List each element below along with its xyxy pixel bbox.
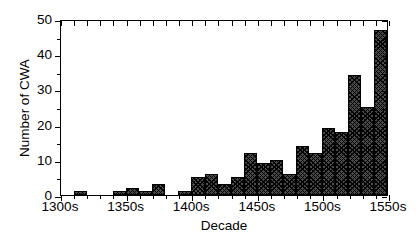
x-axis-minor-tick — [140, 195, 141, 199]
x-axis-minor-tick — [297, 195, 298, 199]
x-axis-top-tick — [271, 21, 272, 26]
x-axis-minor-tick — [350, 195, 351, 199]
x-axis-minor-tick — [363, 195, 364, 199]
x-axis-top-tick — [258, 21, 259, 26]
chart-figure: Number of CWA 01020304050 1300s1350s1400… — [0, 0, 418, 238]
x-axis-top-tick — [376, 21, 377, 26]
bar-fill — [361, 107, 374, 195]
bar-fill — [152, 184, 165, 195]
y-axis-major-tick — [55, 127, 61, 128]
x-tick-label: 1400s — [161, 200, 221, 214]
x-axis-minor-tick — [310, 195, 311, 199]
x-axis-major-tick — [389, 195, 390, 201]
x-tick-label: 1550s — [358, 200, 418, 214]
x-axis-top-tick — [140, 21, 141, 26]
x-axis-top-tick — [323, 21, 324, 26]
bar-fill — [218, 184, 231, 195]
x-axis-top-tick — [87, 21, 88, 26]
x-axis-minor-tick — [232, 195, 233, 199]
x-axis-top-tick — [350, 21, 351, 26]
x-axis-top-tick — [61, 21, 62, 26]
x-axis-minor-tick — [376, 195, 377, 199]
y-axis-minor-tick — [57, 144, 61, 145]
x-axis-major-tick — [323, 195, 324, 201]
bar-fill — [309, 153, 322, 195]
y-axis-minor-tick — [57, 39, 61, 40]
x-axis-top-tick — [153, 21, 154, 26]
y-axis-right-tick — [382, 197, 387, 198]
bar-fill — [191, 177, 204, 195]
x-axis-title: Decade — [60, 218, 388, 233]
bar-fill — [244, 153, 257, 195]
bar-fill — [126, 188, 139, 195]
bar-fill — [283, 174, 296, 195]
bar-fill — [231, 177, 244, 195]
x-axis-major-tick — [61, 195, 62, 201]
x-tick-label: 1350s — [96, 200, 156, 214]
y-axis-right-tick — [382, 21, 387, 22]
y-axis-right-tick — [382, 39, 387, 40]
x-axis-top-tick — [297, 21, 298, 26]
x-axis-minor-tick — [179, 195, 180, 199]
x-axis-minor-tick — [113, 195, 114, 199]
x-axis-major-tick — [192, 195, 193, 201]
y-axis-major-tick — [55, 162, 61, 163]
x-axis-top-tick — [218, 21, 219, 26]
bar-fill — [74, 191, 87, 195]
bar-fill — [374, 30, 387, 195]
y-axis-right-tick — [382, 109, 387, 110]
bar-fill — [257, 163, 270, 195]
bar-series — [61, 21, 387, 195]
x-axis-minor-tick — [271, 195, 272, 199]
x-axis-minor-tick — [87, 195, 88, 199]
x-axis-minor-tick — [218, 195, 219, 199]
x-axis-top-tick — [100, 21, 101, 26]
plot-area — [60, 20, 388, 196]
x-axis-minor-tick — [166, 195, 167, 199]
x-axis-minor-tick — [153, 195, 154, 199]
y-axis-right-tick — [382, 91, 387, 92]
y-axis-minor-tick — [57, 109, 61, 110]
x-tick-label: 1300s — [30, 200, 90, 214]
bar-fill — [113, 191, 126, 195]
x-axis-top-tick — [337, 21, 338, 26]
y-axis-major-tick — [55, 91, 61, 92]
x-axis-top-tick — [232, 21, 233, 26]
bar-fill — [348, 75, 361, 195]
bar-fill — [139, 191, 152, 195]
x-axis-top-tick — [245, 21, 246, 26]
bar-fill — [178, 191, 191, 195]
y-axis-minor-tick — [57, 179, 61, 180]
x-tick-label: 1500s — [292, 200, 352, 214]
x-axis-minor-tick — [337, 195, 338, 199]
x-axis-top-tick — [113, 21, 114, 26]
y-axis-right-tick — [382, 144, 387, 145]
bar-fill — [270, 160, 283, 195]
x-axis-minor-tick — [245, 195, 246, 199]
x-axis-top-tick — [166, 21, 167, 26]
x-axis-top-tick — [192, 21, 193, 26]
y-axis-minor-tick — [57, 74, 61, 75]
y-axis-right-tick — [382, 74, 387, 75]
bar-fill — [296, 146, 309, 195]
bar-fill — [322, 128, 335, 195]
x-axis-top-tick — [74, 21, 75, 26]
x-axis-minor-tick — [284, 195, 285, 199]
x-tick-label: 1450s — [227, 200, 287, 214]
x-axis-top-tick — [389, 21, 390, 26]
y-axis-right-tick — [382, 56, 387, 57]
x-axis-top-tick — [363, 21, 364, 26]
x-axis-major-tick — [127, 195, 128, 201]
x-axis-top-tick — [127, 21, 128, 26]
y-axis-right-tick — [382, 162, 387, 163]
bar-fill — [335, 132, 348, 195]
x-axis-top-tick — [179, 21, 180, 26]
x-axis-top-tick — [310, 21, 311, 26]
x-axis-minor-tick — [205, 195, 206, 199]
y-axis-right-tick — [382, 179, 387, 180]
y-axis-right-tick — [382, 127, 387, 128]
y-axis-major-tick — [55, 56, 61, 57]
x-axis-top-tick — [205, 21, 206, 26]
x-axis-minor-tick — [100, 195, 101, 199]
x-axis-major-tick — [258, 195, 259, 201]
